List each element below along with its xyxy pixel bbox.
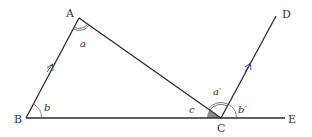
parallel-arrow-icon-CD bbox=[245, 63, 251, 72]
point-label-D: D bbox=[282, 8, 291, 21]
angle-b-prime-arc bbox=[228, 104, 236, 118]
segment-AC bbox=[79, 18, 221, 118]
angle-label-c: c bbox=[189, 104, 195, 115]
angle-b-arc bbox=[34, 104, 42, 118]
angle-label-b-prime: b′ bbox=[238, 104, 247, 115]
point-label-A: A bbox=[65, 7, 75, 20]
point-label-B: B bbox=[14, 113, 22, 126]
point-label-C: C bbox=[217, 122, 225, 135]
point-label-E: E bbox=[288, 113, 296, 126]
geometry-diagram: A B C D E a b c a′ b′ bbox=[0, 0, 312, 137]
angle-label-b: b bbox=[44, 102, 50, 113]
angle-label-a-prime: a′ bbox=[213, 86, 222, 97]
angle-label-a: a bbox=[80, 38, 86, 49]
